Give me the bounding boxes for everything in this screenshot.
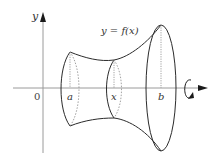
- point-a-label: a: [67, 91, 73, 102]
- point-x-label: x: [111, 91, 117, 102]
- y-axis-arrow-icon: [40, 12, 46, 22]
- origin-label: 0: [34, 91, 40, 102]
- cross-section-a: [61, 52, 79, 126]
- solid-of-revolution-diagram: y 0 y = f(x) a x b: [0, 0, 218, 161]
- lower-curve: [70, 118, 161, 151]
- y-axis-label: y: [31, 10, 39, 23]
- rotation-arrow-icon: [185, 80, 194, 99]
- cross-section-x: [107, 60, 122, 118]
- point-b-label: b: [158, 91, 164, 102]
- curve-label: y = f(x): [100, 25, 139, 36]
- x-axis-arrow-icon: [198, 85, 208, 91]
